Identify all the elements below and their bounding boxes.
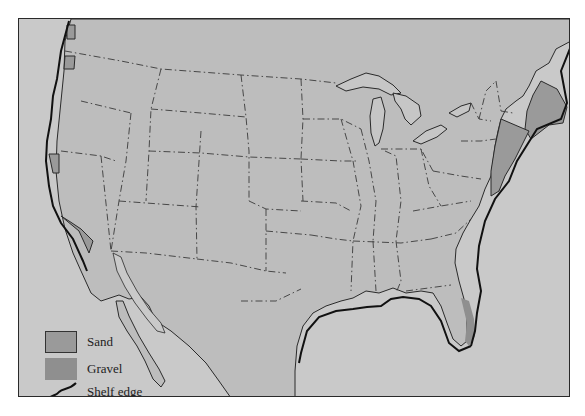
shelf-edge-line xyxy=(45,381,77,397)
legend-item-sand: Sand xyxy=(45,331,113,353)
legend-item-gravel: Gravel xyxy=(45,358,122,380)
gravel-swatch xyxy=(45,358,77,380)
legend-label: Shelf edge xyxy=(87,384,142,397)
legend-label: Gravel xyxy=(87,361,122,377)
sand-swatch xyxy=(45,331,77,353)
sand-northern-california xyxy=(49,154,59,173)
sand-new-england xyxy=(525,81,567,139)
sand-oregon xyxy=(64,56,75,69)
legend-item-shelf-edge: Shelf edge xyxy=(45,381,142,397)
legend-label: Sand xyxy=(87,334,113,350)
map-frame: Sand Gravel Shelf edge xyxy=(18,18,570,397)
